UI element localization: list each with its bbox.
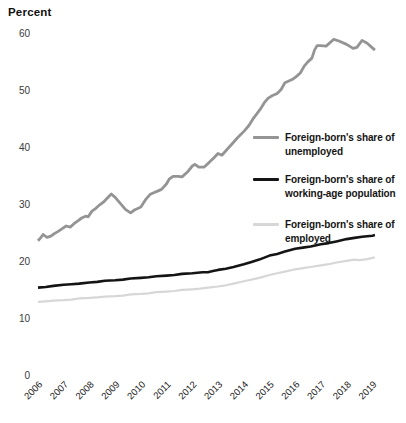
y-tick-50: 50 [19, 85, 31, 96]
x-label-2012: 2012 [176, 379, 199, 402]
x-label-2010: 2010 [125, 379, 148, 402]
y-tick-60: 60 [19, 28, 31, 39]
legend-item-working-age: Foreign-born's share ofworking-age popul… [253, 173, 396, 200]
x-label-2006: 2006 [22, 379, 45, 402]
x-label-2014: 2014 [227, 379, 250, 402]
legend-item-unemployed: Foreign-born's share ofunemployed [253, 131, 395, 158]
y-tick-20: 20 [19, 256, 31, 267]
x-label-2017: 2017 [305, 379, 328, 402]
employed-line [38, 257, 375, 302]
working-age-line-swatch [253, 178, 279, 181]
y-tick-0: 0 [24, 370, 30, 381]
unemployed-line-swatch [253, 136, 279, 139]
y-tick-10: 10 [19, 313, 31, 324]
legend-label-line1: Foreign-born's share of [285, 219, 395, 230]
y-tick-30: 30 [19, 199, 31, 210]
x-label-2019: 2019 [356, 379, 379, 402]
x-label-2007: 2007 [47, 379, 70, 402]
legend-label-unemployed: Foreign-born's share ofunemployed [285, 131, 395, 158]
x-label-2011: 2011 [151, 379, 173, 401]
y-tick-40: 40 [19, 142, 31, 153]
x-label-2013: 2013 [202, 379, 225, 402]
legend-label-employed: Foreign-born's share ofemployed [285, 218, 395, 245]
legend-label-line1: Foreign-born's share of [285, 174, 395, 185]
chart-container: Percent 60504030201002006200720082009201… [0, 0, 406, 423]
line-chart: 6050403020100200620072008200920102011201… [0, 0, 406, 423]
x-label-2018: 2018 [330, 379, 353, 402]
x-label-2016: 2016 [279, 379, 302, 402]
legend-label-line2: employed [285, 233, 331, 244]
employed-line-swatch [253, 223, 279, 226]
x-label-2015: 2015 [253, 379, 276, 402]
legend-label-line1: Foreign-born's share of [285, 132, 395, 143]
x-label-2008: 2008 [73, 379, 96, 402]
legend-label-line2: working-age population [285, 188, 396, 199]
legend-item-employed: Foreign-born's share ofemployed [253, 218, 395, 245]
x-label-2009: 2009 [99, 379, 122, 402]
legend-label-working-age: Foreign-born's share ofworking-age popul… [285, 173, 396, 200]
legend-label-line2: unemployed [285, 146, 343, 157]
